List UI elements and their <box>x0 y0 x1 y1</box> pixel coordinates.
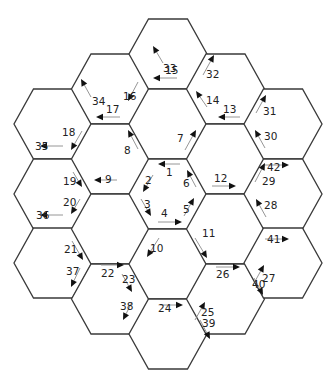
arrow-label: 35 <box>35 140 48 152</box>
arrow-label: 18 <box>62 126 75 138</box>
arrow-label: 40 <box>252 278 265 290</box>
arrow-label: 20 <box>63 196 76 208</box>
arrow-label: 11 <box>202 227 215 239</box>
arrow-label: 34 <box>92 95 106 107</box>
arrow-label: 39 <box>202 317 215 329</box>
arrow-label: 22 <box>101 267 114 279</box>
arrow-label: 12 <box>214 172 227 184</box>
arrow-label: 2 <box>145 174 152 186</box>
arrow-label: 14 <box>206 94 220 106</box>
arrow-label: 32 <box>206 68 219 80</box>
arrow-label: 1 <box>166 166 173 178</box>
arrow-label: 37 <box>66 265 79 277</box>
arrow-label: 17 <box>106 103 119 115</box>
arrow-label: 4 <box>161 207 168 219</box>
arrow-label: 24 <box>158 302 172 314</box>
arrow-label: 26 <box>216 268 230 280</box>
hex-board: 1234567891011121314151617181920212223242… <box>0 0 335 382</box>
arrow-label: 28 <box>264 199 277 211</box>
arrow-label: 10 <box>150 242 163 254</box>
arrow-label: 29 <box>262 175 275 187</box>
arrow-label: 9 <box>105 173 112 185</box>
arrow-label: 31 <box>263 105 276 117</box>
arrow-label: 13 <box>223 103 236 115</box>
arrow-label: 5 <box>183 203 190 215</box>
arrow-label: 7 <box>177 132 184 144</box>
arrow-label: 19 <box>63 175 76 187</box>
arrow-label: 41 <box>267 233 280 245</box>
arrow-label: 23 <box>122 273 135 285</box>
arrow-label: 36 <box>36 209 50 221</box>
arrow-label: 3 <box>144 198 151 210</box>
arrow-label: 8 <box>124 144 131 156</box>
arrow-label: 16 <box>123 90 137 102</box>
arrow-label: 42 <box>267 161 280 173</box>
arrow-label: 6 <box>183 177 190 189</box>
arrow-label: 21 <box>64 243 77 255</box>
arrow-label: 30 <box>264 130 277 142</box>
arrow-label: 33 <box>163 62 176 74</box>
arrow-label: 38 <box>120 300 133 312</box>
